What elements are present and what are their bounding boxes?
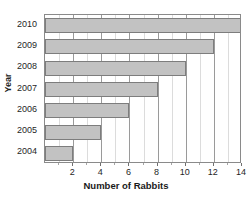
bar-2008 — [45, 61, 186, 76]
plot-area — [44, 14, 241, 163]
bar-2006 — [45, 103, 129, 118]
x-axis-title: Number of Rabbits — [0, 180, 252, 191]
y-tick-label-2006: 2006 — [17, 104, 37, 114]
y-tick-label-2009: 2009 — [17, 40, 37, 50]
x-tick-label-6: 6 — [116, 167, 140, 177]
bar-slot — [45, 36, 240, 57]
y-tick-label-2010: 2010 — [17, 19, 37, 29]
y-tick-label-2007: 2007 — [17, 83, 37, 93]
bar-slot — [45, 143, 240, 163]
bar-2005 — [45, 125, 101, 140]
x-tick-major — [185, 163, 186, 166]
bar-chart: Number of rabbits in a forest Year 20102… — [0, 0, 252, 198]
bar-slot — [45, 58, 240, 79]
x-tick-minor — [227, 163, 228, 165]
y-tick-label-2004: 2004 — [17, 146, 37, 156]
x-tick-major — [100, 163, 101, 166]
y-tick-label-2005: 2005 — [17, 125, 37, 135]
y-axis-title: Year — [3, 63, 13, 103]
x-tick-minor — [86, 163, 87, 165]
bar-2004 — [45, 146, 73, 161]
x-tick-major — [72, 163, 73, 166]
bar-2007 — [45, 82, 158, 97]
x-tick-label-10: 10 — [173, 167, 197, 177]
x-tick-minor — [58, 163, 59, 165]
bar-slot — [45, 100, 240, 121]
x-tick-major — [128, 163, 129, 166]
bar-slot — [45, 79, 240, 100]
x-tick-minor — [171, 163, 172, 165]
bar-slot — [45, 15, 240, 36]
x-tick-major — [157, 163, 158, 166]
x-tick-major — [241, 163, 242, 166]
x-tick-label-4: 4 — [88, 167, 112, 177]
y-tick-label-2008: 2008 — [17, 61, 37, 71]
bars-layer — [45, 15, 240, 162]
x-tick-label-12: 12 — [201, 167, 225, 177]
bar-2009 — [45, 39, 214, 54]
bar-2010 — [45, 18, 241, 33]
bar-slot — [45, 121, 240, 142]
x-tick-major — [213, 163, 214, 166]
x-tick-minor — [199, 163, 200, 165]
x-tick-label-8: 8 — [145, 167, 169, 177]
x-tick-label-2: 2 — [60, 167, 84, 177]
x-tick-minor — [114, 163, 115, 165]
x-tick-minor — [143, 163, 144, 165]
x-tick-label-14: 14 — [229, 167, 252, 177]
